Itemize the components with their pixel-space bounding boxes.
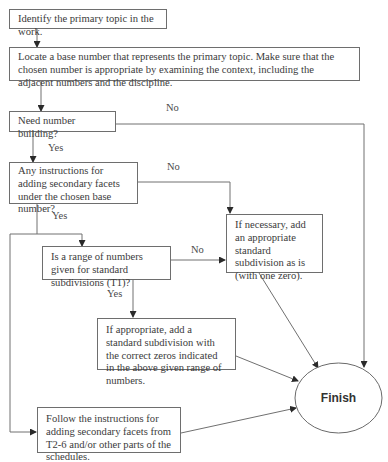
arrow-instructions-no-to-if-necessary <box>138 182 230 213</box>
arrow-if-appropriate-to-finish <box>236 356 298 381</box>
node-if-necessary: If necessary, add an appropriate standar… <box>226 214 323 273</box>
arrow-if-necessary-to-finish <box>259 273 318 368</box>
node-locate-base-number: Locate a base number that represents the… <box>9 47 360 81</box>
edge-label-range-no: No <box>191 244 204 255</box>
edge-label-instructions-yes: Yes <box>52 210 67 221</box>
arrow-instructions-yes-to-follow <box>10 234 36 432</box>
node-range-given: Is a range of numbers given for standard… <box>42 246 171 280</box>
arrow-instructions-yes-to-range <box>10 234 82 246</box>
node-follow-instructions: Follow the instructions for adding secon… <box>37 407 181 453</box>
edge-label-need-yes: Yes <box>48 142 63 153</box>
node-any-instructions: Any instructions for adding secondary fa… <box>9 162 138 204</box>
node-identify-topic: Identify the primary topic in the work. <box>9 9 167 29</box>
edge-label-instructions-no: No <box>167 161 180 172</box>
node-need-number-building: Need number building? <box>9 111 116 132</box>
node-text: If necessary, add an appropriate standar… <box>235 219 306 281</box>
node-finish: Finish <box>295 391 382 405</box>
arrow-follow-to-finish <box>181 408 296 433</box>
edge-label-range-yes: Yes <box>107 288 122 299</box>
edge-label-need-no: No <box>166 102 179 113</box>
node-text: Is a range of numbers given for standard… <box>51 251 143 288</box>
node-if-appropriate: If appropriate, add a standard subdivisi… <box>97 318 236 370</box>
